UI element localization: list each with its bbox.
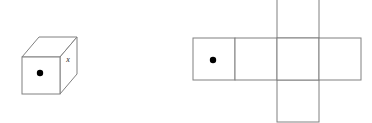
net-square-3 [277,38,319,80]
net-square-1-dot-icon [210,57,216,63]
cube-right-face-label: x [65,55,70,64]
figure-canvas: x [0,0,372,123]
net-square-top [277,0,319,38]
net-square-bottom [277,80,319,122]
net-square-4 [319,38,361,80]
net-group [193,0,361,122]
cube-front-face-dot-icon [37,70,43,76]
geometry-figure: x [0,0,372,123]
net-square-2 [235,38,277,80]
cube-group: x [22,37,77,94]
